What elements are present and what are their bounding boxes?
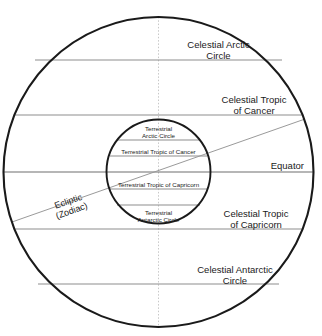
celestial-antarctic-circle-label: Celestial Antarctic Circle	[178, 265, 292, 286]
celestial-tropic-of-capricorn-label: Celestial Tropic of Capricorn	[204, 209, 308, 230]
celestial-tropic-of-cancer-label: Celestial Tropic of Cancer	[204, 95, 304, 116]
terrestrial-tropic-of-capricorn-label: Terrestrial Tropic of Capricorn	[103, 182, 214, 189]
celestial-tropic-of-cancer-label-line2: of Cancer	[204, 106, 304, 117]
terrestrial-antarctic-circle-label-line2: Antarctic Circle	[120, 217, 197, 224]
terrestrial-tropic-of-cancer-label: Terrestrial Tropic of Cancer	[105, 149, 212, 156]
celestial-sphere-diagram: Celestial Arctic Circle Celestial Tropic…	[0, 0, 322, 336]
terrestrial-arctic-circle-label: Terrestrial Arctic Circle	[120, 126, 197, 140]
celestial-tropic-of-capricorn-label-line2: of Capricorn	[204, 220, 308, 231]
celestial-arctic-circle-label: Celestial Arctic Circle	[166, 40, 271, 61]
celestial-antarctic-circle-label-line2: Circle	[178, 276, 292, 287]
celestial-arctic-circle-label-line2: Circle	[166, 51, 271, 62]
terrestrial-antarctic-circle-label: Terrestrial Antarctic Circle	[120, 210, 197, 224]
terrestrial-arctic-circle-label-line2: Arctic Circle	[120, 133, 197, 140]
celestial-equator-label: Equator	[218, 161, 304, 172]
